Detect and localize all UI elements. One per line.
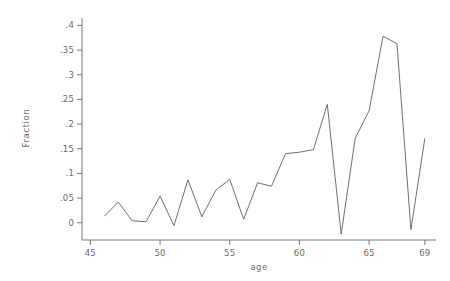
y-tick-label: 0 (68, 218, 74, 228)
plot-area (0, 0, 450, 281)
y-axis-label: Fraction (21, 108, 31, 148)
data-series-line (104, 36, 425, 234)
y-axis-ticks (77, 25, 82, 222)
y-tick-label: .3 (65, 70, 74, 80)
y-tick-label: .15 (60, 144, 74, 154)
y-tick-label: .05 (60, 193, 74, 203)
x-tick-label: 60 (294, 248, 305, 258)
y-tick-label: .1 (65, 168, 74, 178)
x-tick-label: 65 (363, 248, 374, 258)
y-tick-label: .35 (60, 45, 74, 55)
fraction-by-age-chart: 0.05.1.15.2.25.3.35.4 455055606569 Fract… (0, 0, 450, 281)
y-tick-label: .25 (60, 94, 74, 104)
x-tick-label: 69 (419, 248, 430, 258)
x-axis-ticks (90, 240, 424, 245)
y-tick-label: .2 (65, 119, 74, 129)
x-axis-label: age (250, 262, 267, 272)
x-tick-label: 50 (154, 248, 165, 258)
y-tick-label: .4 (65, 20, 74, 30)
x-tick-label: 45 (85, 248, 96, 258)
x-tick-label: 55 (224, 248, 235, 258)
